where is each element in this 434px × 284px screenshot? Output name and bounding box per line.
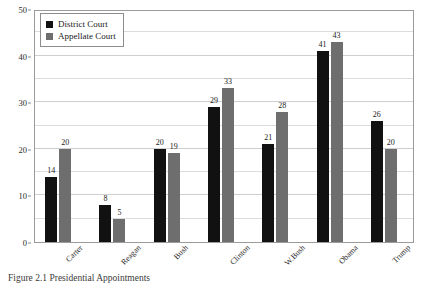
y-axis-tick-label: 30 [19, 99, 28, 108]
bar-value-label: 19 [170, 143, 178, 151]
chart-legend: District Court Appellate Court [40, 13, 124, 47]
x-axis-tick-label: Bush [173, 244, 190, 261]
bar-district: 14 [45, 177, 57, 242]
x-axis-tick-label: Trump [391, 244, 412, 265]
bar-district: 29 [208, 107, 220, 242]
bar-value-label: 21 [264, 134, 272, 142]
x-axis-tick-label: W.Bush [284, 244, 308, 268]
bar-district: 41 [317, 51, 329, 242]
bar-value-label: 26 [373, 111, 381, 119]
bar-group: 2620 [361, 11, 415, 242]
bar-appellate: 19 [168, 153, 180, 242]
y-axis-tick-label: 50 [19, 6, 28, 15]
bar-value-label: 20 [387, 139, 395, 147]
x-axis-tick-label: Reagan [120, 244, 143, 267]
bar-group: 2933 [198, 11, 252, 242]
x-axis: CarterReaganBushClintonW.BushObamaTrump [34, 244, 414, 270]
legend-item-label: District Court [58, 20, 108, 29]
y-axis-tick-label: 40 [19, 52, 28, 61]
bar-appellate: 43 [331, 42, 343, 242]
bar-value-label: 41 [319, 41, 327, 49]
bar-district: 8 [99, 205, 111, 242]
bar-district: 20 [154, 149, 166, 242]
x-axis-tick-label: Obama [337, 244, 359, 266]
y-axis-tick-mark [28, 243, 31, 244]
bar-appellate: 33 [222, 88, 234, 242]
bar-value-label: 33 [224, 78, 232, 86]
bar-value-label: 43 [333, 32, 341, 40]
legend-item-label: Appellate Court [58, 32, 116, 41]
bar-district: 21 [262, 144, 274, 242]
bar-appellate: 28 [276, 112, 288, 242]
legend-swatch-icon [46, 21, 53, 28]
bar-value-label: 5 [117, 209, 121, 217]
bar-value-label: 8 [103, 195, 107, 203]
x-axis-tick-label: Clinton [229, 244, 252, 267]
y-axis-tick-label: 0 [23, 239, 27, 248]
bar-appellate: 5 [113, 219, 125, 242]
y-axis-tick-label: 20 [19, 146, 28, 155]
bar-group: 2128 [252, 11, 306, 242]
legend-item-district: District Court [46, 18, 116, 30]
x-axis-tick-label: Carter [65, 244, 85, 264]
bar-value-label: 29 [210, 97, 218, 105]
y-axis-tick-mark [28, 10, 31, 11]
bar-value-label: 14 [47, 167, 55, 175]
y-axis-tick-label: 10 [19, 192, 28, 201]
legend-item-appellate: Appellate Court [46, 30, 116, 42]
bar-value-label: 28 [278, 102, 286, 110]
bar-value-label: 20 [61, 139, 69, 147]
bar-value-label: 20 [156, 139, 164, 147]
legend-swatch-icon [46, 33, 53, 40]
bar-appellate: 20 [385, 149, 397, 242]
bar-appellate: 20 [59, 149, 71, 242]
bar-district: 26 [371, 121, 383, 242]
bar-group: 4143 [306, 11, 360, 242]
bar-group: 2019 [144, 11, 198, 242]
y-axis-tick-mark [28, 56, 31, 57]
y-axis-tick-mark [28, 149, 31, 150]
y-axis-tick-mark [28, 196, 31, 197]
figure-caption: Figure 2.1 Presidential Appointments [8, 273, 428, 284]
y-axis-tick-mark [28, 103, 31, 104]
y-axis: 01020304050 [0, 10, 31, 243]
